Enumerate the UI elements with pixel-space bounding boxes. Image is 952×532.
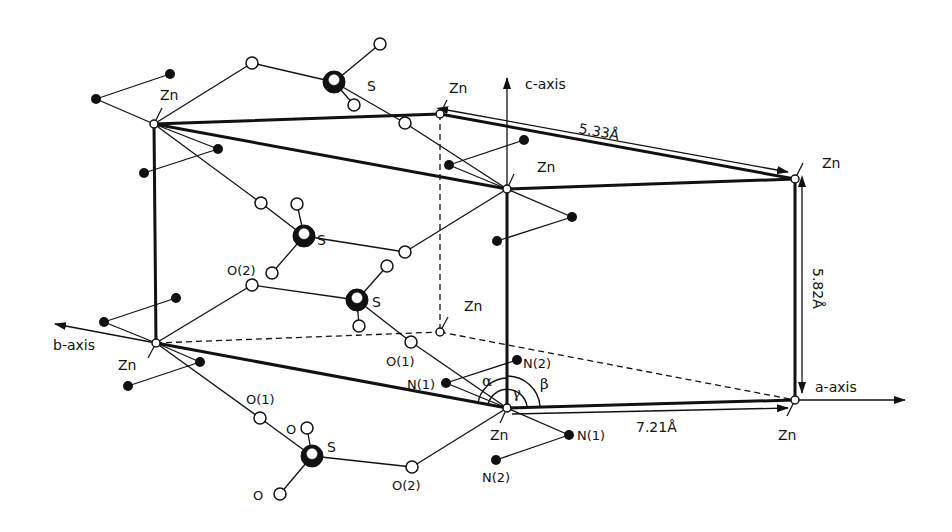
axes bbox=[55, 78, 905, 408]
n1-label: N(1) bbox=[577, 428, 605, 443]
c-dimension-label: 5.82Å bbox=[810, 268, 826, 309]
o-label: O bbox=[253, 488, 263, 503]
s-label: S bbox=[372, 294, 381, 310]
a-axis-label: a-axis bbox=[815, 379, 857, 395]
s-label: S bbox=[367, 78, 376, 94]
zn-label-ticks bbox=[148, 100, 803, 423]
zn-label: Zn bbox=[449, 80, 467, 96]
zn-label: Zn bbox=[160, 87, 178, 103]
o1-label: O(1) bbox=[246, 392, 275, 407]
zn-label: Zn bbox=[778, 427, 796, 443]
zinc-atoms bbox=[150, 110, 799, 412]
dimension-arrows bbox=[447, 110, 802, 414]
a-dimension-arrow bbox=[512, 408, 788, 414]
o-label: O bbox=[286, 422, 296, 437]
n1-label: N(1) bbox=[407, 377, 435, 392]
n2-label: N(2) bbox=[482, 470, 510, 485]
o2-label: O(2) bbox=[392, 478, 421, 493]
zn-label: Zn bbox=[537, 159, 555, 175]
zn-label: Zn bbox=[490, 427, 508, 443]
hidden-cell-edges bbox=[156, 114, 795, 400]
zn-label: Zn bbox=[464, 298, 482, 314]
n2-label: N(2) bbox=[523, 356, 551, 371]
c-axis-label: c-axis bbox=[525, 76, 566, 92]
a-dimension-label: 7.21Å bbox=[636, 419, 677, 435]
unit-cell-edges bbox=[154, 114, 795, 408]
zn-label: Zn bbox=[822, 155, 840, 171]
o2-label: O(2) bbox=[227, 263, 256, 278]
beta-label: β bbox=[540, 375, 549, 393]
gamma-label: γ bbox=[512, 384, 521, 402]
s-label: S bbox=[327, 439, 336, 455]
oxygen-atoms bbox=[246, 38, 418, 500]
sulfur-atoms bbox=[293, 71, 368, 467]
alpha-label: α bbox=[482, 372, 492, 390]
o1-label: O(1) bbox=[386, 354, 415, 369]
labels: c-axis a-axis b-axis 5.33Å 5.82Å 7.21Å Z… bbox=[53, 76, 857, 503]
s-label: S bbox=[317, 232, 326, 248]
crystal-structure-diagram: c-axis a-axis b-axis 5.33Å 5.82Å 7.21Å Z… bbox=[0, 0, 952, 532]
zn-label: Zn bbox=[118, 357, 136, 373]
b-axis-label: b-axis bbox=[53, 337, 95, 353]
